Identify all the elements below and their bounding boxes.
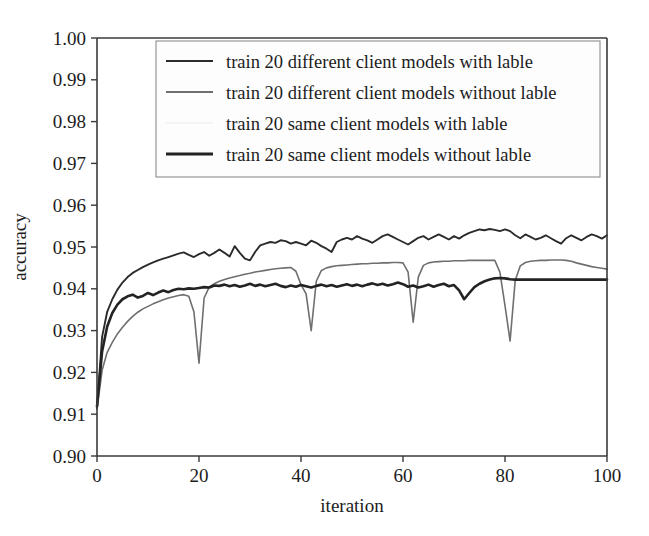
y-axis-title: accuracy — [9, 213, 30, 281]
y-tick-label-8: 0.98 — [53, 111, 86, 132]
x-tick-label-2: 40 — [292, 465, 311, 486]
x-tick-label-4: 80 — [496, 465, 515, 486]
legend-label-3: train 20 same client models with lable — [226, 114, 508, 134]
legend-label-1: train 20 different client models with la… — [226, 52, 533, 72]
y-tick-label-1: 0.91 — [53, 404, 86, 425]
y-tick-label-6: 0.96 — [53, 195, 86, 216]
x-axis-title: iteration — [320, 495, 384, 516]
y-tick-label-5: 0.95 — [53, 237, 86, 258]
chart-legend: train 20 different client models with la… — [156, 41, 600, 177]
y-tick-label-2: 0.92 — [53, 362, 86, 383]
y-tick-label-3: 0.93 — [53, 320, 86, 341]
x-tick-label-0: 0 — [92, 465, 102, 486]
series-layer — [97, 229, 607, 409]
series-line-2 — [97, 260, 607, 409]
accuracy-vs-iteration-chart: 0.900.910.920.930.940.950.960.970.980.99… — [0, 0, 649, 536]
x-tick-label-5: 100 — [593, 465, 622, 486]
y-tick-label-0: 0.90 — [53, 446, 86, 467]
legend-label-4: train 20 same client models without labl… — [226, 145, 531, 165]
y-tick-label-9: 0.99 — [53, 69, 86, 90]
legend-label-2: train 20 different client models without… — [226, 83, 557, 103]
chart-canvas: 0.900.910.920.930.940.950.960.970.980.99… — [0, 0, 649, 536]
x-tick-label-3: 60 — [394, 465, 413, 486]
x-tick-label-1: 20 — [190, 465, 209, 486]
y-tick-label-4: 0.94 — [53, 278, 87, 299]
series-line-1 — [97, 229, 607, 408]
y-tick-label-7: 0.97 — [53, 153, 86, 174]
y-tick-label-10: 1.00 — [53, 28, 86, 49]
